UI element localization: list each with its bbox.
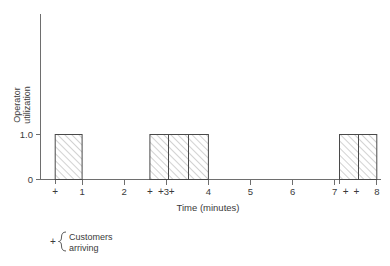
x-tick-label-7: 7 <box>332 186 337 197</box>
arrival-mark-4: + <box>343 186 349 197</box>
x-tick-label-8: 8 <box>374 186 379 197</box>
x-tick-label-4: 4 <box>206 186 211 197</box>
legend-label-line1: Customers <box>69 232 113 242</box>
bar-group <box>55 135 377 180</box>
x-tick-group <box>82 180 377 186</box>
arrival-mark-5: + <box>354 186 360 197</box>
legend: + Customers arriving <box>50 232 113 253</box>
y-tick-label-0: 0 <box>28 174 33 185</box>
bar-cluster-b <box>150 135 209 180</box>
legend-brace-icon <box>59 232 67 251</box>
arrival-mark-3: + <box>169 186 175 197</box>
x-tick-label-group: 1 2 3 4 5 6 7 8 <box>79 186 379 197</box>
arrival-mark-2: + <box>158 186 164 197</box>
operator-utilization-chart: 1.0 0 Operator utilization 1 2 3 4 5 6 <box>0 0 390 266</box>
y-tick-label-1.0: 1.0 <box>20 129 33 140</box>
y-axis-title-line2: utilization <box>22 86 32 124</box>
bar-cluster-a <box>55 135 82 180</box>
x-axis-title: Time (minutes) <box>177 202 240 213</box>
y-tick-group: 1.0 0 <box>20 129 41 185</box>
legend-plus-icon: + <box>50 236 56 247</box>
legend-label-line2: arriving <box>69 243 99 253</box>
chart-canvas: 1.0 0 Operator utilization 1 2 3 4 5 6 <box>0 0 390 266</box>
arrival-mark-1: + <box>147 186 153 197</box>
arrival-tick-group <box>55 180 339 185</box>
x-tick-label-6: 6 <box>290 186 295 197</box>
y-axis-title: Operator utilization <box>12 86 32 124</box>
y-axis-title-line1: Operator <box>12 87 22 123</box>
x-tick-label-5: 5 <box>248 186 253 197</box>
x-tick-label-1: 1 <box>79 186 84 197</box>
arrival-mark-0: + <box>52 186 58 197</box>
x-tick-label-2: 2 <box>122 186 127 197</box>
